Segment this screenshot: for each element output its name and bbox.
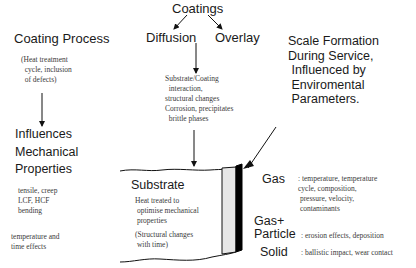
coating-system-diagram: Coatings Diffusion Overlay Coating Proce… xyxy=(0,0,416,268)
coating-layer xyxy=(222,167,236,254)
gas-particle-note: : erosion effects, deposition xyxy=(301,231,384,241)
overlay-label: Overlay xyxy=(215,30,260,45)
coatings-label: Coatings xyxy=(172,1,223,16)
solid-note: : ballistic impact, wear contact xyxy=(301,248,393,258)
gas-note: : temperature, temperature cycle, compos… xyxy=(298,174,377,214)
diffusion-label: Diffusion xyxy=(146,30,196,45)
substrate-top-edge xyxy=(120,167,236,171)
interaction-note: Substrate/Coating interaction, structura… xyxy=(165,74,233,124)
gas-particle-label-line1: Gas+ xyxy=(254,214,284,228)
arrow-coatings-to-overlay xyxy=(208,15,222,29)
coating-process-note: (Heat treatment cycle, inclusion of defe… xyxy=(21,55,72,85)
scale-layer xyxy=(236,164,242,252)
solid-label: Solid xyxy=(260,245,288,259)
mechanical-properties-note: tensile, creep LCF, HCF bending xyxy=(16,186,57,216)
substrate-note: Heat treated to optimise mechanical prop… xyxy=(135,196,199,226)
substrate-label: Substrate xyxy=(131,178,185,192)
gas-particle-label-line2: Particle xyxy=(254,227,296,241)
arrow-coatings-to-diffusion xyxy=(174,15,187,29)
substrate-time-note: (Structural changes with time) xyxy=(135,230,193,250)
mechanical-label: Mechanical xyxy=(15,145,78,160)
substrate-bottom-edge xyxy=(120,252,236,262)
coating-process-label: Coating Process xyxy=(14,31,109,46)
influences-label: Influences xyxy=(15,127,72,142)
properties-label: Properties xyxy=(15,162,72,177)
temperature-note: temperature and time effects xyxy=(11,232,60,252)
arrow-scale-to-surface xyxy=(248,127,276,168)
scale-formation-title: Scale Formation During Service, Influenc… xyxy=(288,34,379,107)
gas-label: Gas xyxy=(262,172,285,186)
